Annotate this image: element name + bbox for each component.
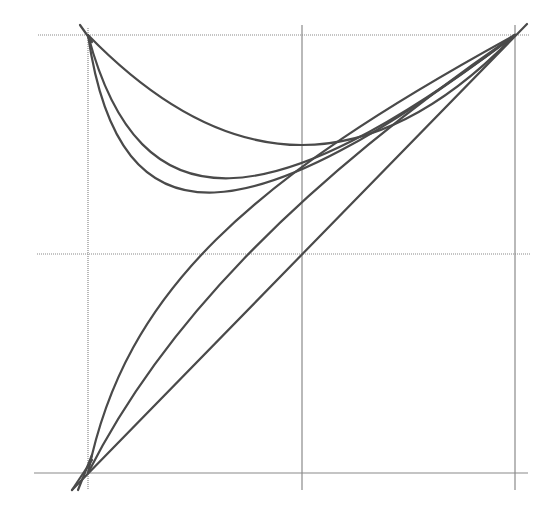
curves: [72, 24, 527, 490]
overshoot-top-left: [80, 25, 92, 42]
diagram-canvas: [0, 0, 557, 522]
curve-diagram: [0, 0, 557, 522]
curve-diagonal: [72, 24, 527, 490]
